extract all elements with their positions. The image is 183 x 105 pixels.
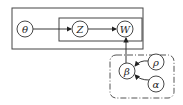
node-z: Z (72, 21, 88, 37)
svg-text:W: W (120, 24, 131, 35)
node-beta: β (119, 63, 135, 79)
node-w: W (117, 21, 133, 37)
svg-text:θ: θ (22, 24, 28, 35)
node-alpha: α (148, 76, 164, 92)
svg-text:ρ: ρ (152, 57, 159, 68)
svg-text:β: β (123, 66, 130, 77)
svg-text:Z: Z (76, 24, 85, 35)
node-theta: θ (17, 21, 33, 37)
edge-alpha-beta (135, 75, 149, 80)
node-rho: ρ (148, 54, 164, 70)
graphical-model-diagram: θ Z W β ρ α (0, 0, 183, 105)
svg-text:α: α (153, 79, 160, 90)
edge-rho-beta (135, 61, 148, 66)
